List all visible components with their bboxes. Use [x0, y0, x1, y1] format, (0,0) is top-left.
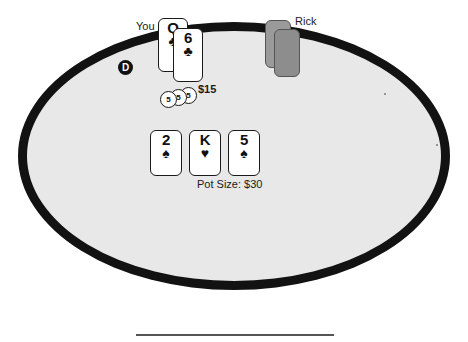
- dealer-button[interactable]: D: [118, 60, 133, 75]
- board-card-2: K ♥: [189, 130, 221, 176]
- player-label-rick: Rick: [295, 15, 316, 27]
- board-card-3: 5 ♠: [228, 130, 260, 176]
- spades-suit-icon: ♠: [162, 146, 169, 160]
- board-card-1: 2 ♠: [150, 130, 182, 176]
- bet-amount-you: $15: [198, 83, 216, 95]
- spades-suit-icon: ♠: [240, 146, 247, 160]
- felt-speck-icon: [436, 144, 438, 146]
- poker-table-scene: You Q ♣ 6 ♣ Rick D 5 5 5 $15 2 ♠ K ♥ 5 ♠…: [0, 0, 468, 342]
- hearts-suit-icon: ♥: [201, 146, 209, 160]
- clubs-suit-icon: ♣: [183, 44, 192, 58]
- player-label-you: You: [136, 20, 155, 32]
- bet-chip: 5: [160, 91, 177, 108]
- bottom-divider: [136, 334, 334, 336]
- hole-card-you-2[interactable]: 6 ♣: [173, 28, 203, 82]
- felt-speck-icon: [384, 93, 386, 95]
- pot-size-label: Pot Size: $30: [197, 178, 262, 190]
- facedown-card-rick-2[interactable]: [274, 29, 300, 77]
